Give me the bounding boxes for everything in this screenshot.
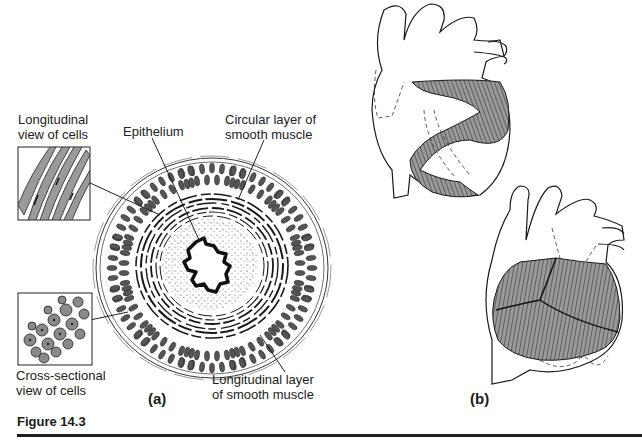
inset-cross-sectional-view xyxy=(18,293,92,365)
panel-label-b: (b) xyxy=(470,390,489,407)
label-epithelium: Epithelium xyxy=(123,124,184,139)
label-longitudinal-layer: Longitudinal layer of smooth muscle xyxy=(212,372,314,402)
heart-lower-muscle-band xyxy=(493,258,620,360)
figure-caption: Figure 14.3 xyxy=(17,414,86,429)
label-circular-layer: Circular layer of smooth muscle xyxy=(225,112,316,142)
label-cross-sectional-view: Cross-sectional view of cells xyxy=(16,368,106,398)
panel-label-a: (a) xyxy=(148,390,166,407)
label-longitudinal-view: Longitudinal view of cells xyxy=(18,112,88,142)
caption-rule xyxy=(17,434,642,437)
inset-longitudinal-view xyxy=(18,147,90,220)
